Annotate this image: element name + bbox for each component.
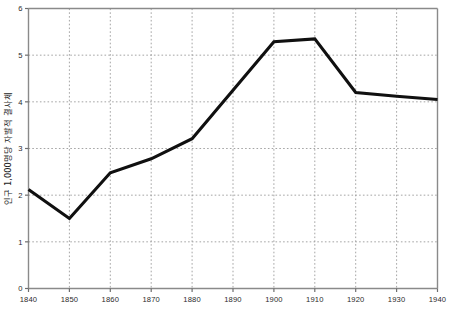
y-tick-label-0: 0: [18, 284, 22, 293]
x-tick-label-1910: 1910: [306, 295, 324, 304]
y-axis-tick-labels: 0123456: [18, 4, 22, 293]
line-chart: 0123456 18401850186018701880189019001910…: [0, 0, 452, 315]
x-tick-label-1920: 1920: [347, 295, 365, 304]
y-axis-title: 인구 1,000명당 자발적 결사체: [3, 92, 13, 205]
y-tick-label-2: 2: [18, 191, 22, 200]
x-tick-label-1890: 1890: [224, 295, 242, 304]
x-tick-label-1880: 1880: [183, 295, 201, 304]
x-tick-label-1860: 1860: [102, 295, 120, 304]
chart-canvas: 0123456 18401850186018701880189019001910…: [0, 0, 452, 315]
y-tick-label-4: 4: [18, 98, 22, 107]
y-tick-label-6: 6: [18, 4, 22, 13]
x-tick-label-1900: 1900: [265, 295, 283, 304]
x-tick-label-1930: 1930: [388, 295, 406, 304]
y-axis-title-text: 인구 1,000명당 자발적 결사체: [3, 92, 13, 205]
x-tick-label-1850: 1850: [61, 295, 79, 304]
x-tick-label-1870: 1870: [142, 295, 160, 304]
x-tick-label-1940: 1940: [429, 295, 447, 304]
y-tick-label-5: 5: [18, 51, 22, 60]
gridlines-vertical: [69, 9, 396, 289]
x-axis-tick-labels: 1840185018601870188018901900191019201930…: [20, 295, 447, 304]
y-tick-label-1: 1: [18, 238, 22, 247]
y-tick-label-3: 3: [18, 144, 22, 153]
x-tick-label-1840: 1840: [20, 295, 38, 304]
